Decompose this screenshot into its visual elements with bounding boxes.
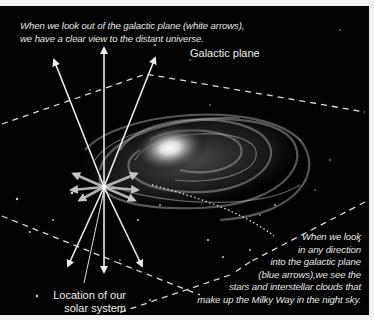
leader-line-location [84, 190, 104, 283]
right-caption-line-1: When we look [131, 231, 361, 244]
top-caption: When we look out of the galactic plane (… [20, 20, 320, 45]
galactic-plane-label: Galactic plane [190, 47, 260, 60]
right-caption-line-3: into the galactic plane [131, 256, 361, 269]
right-caption-line-5: stars and interstellar clouds that [131, 281, 361, 294]
right-caption: When we look in any direction into the g… [131, 231, 361, 306]
top-caption-line-1: When we look out of the galactic plane (… [20, 20, 320, 33]
right-caption-line-2: in any direction [131, 244, 361, 257]
location-label-line-2: solar system [46, 302, 126, 315]
spiral-galaxy [64, 94, 316, 226]
right-caption-line-4: (blue arrows),we see the [131, 269, 361, 282]
location-label-line-1: Location of our [46, 289, 126, 302]
right-caption-line-6: make up the Milky Way in the night sky. [131, 294, 361, 307]
solar-system-marker [102, 185, 107, 190]
diagram-panel: When we look out of the galactic plane (… [0, 6, 369, 315]
top-caption-line-2: we have a clear view to the distant univ… [20, 33, 320, 46]
location-label: Location of our solar system [46, 289, 126, 315]
